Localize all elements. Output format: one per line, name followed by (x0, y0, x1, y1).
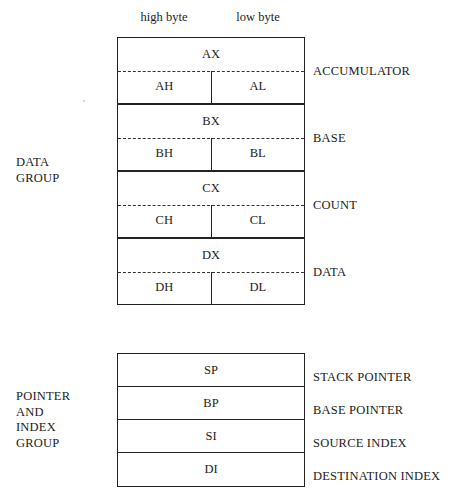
pointer-index-group-caption: POINTER AND INDEX GROUP (16, 389, 70, 451)
register-cell-bp: BP (118, 387, 304, 420)
register-cell-sp: SP (118, 354, 304, 387)
register-label-base-pointer: BASE POINTER (313, 403, 403, 417)
register-cell-bx: BX BH BL (117, 104, 305, 171)
register-halves-dx: DH DL (118, 272, 304, 305)
register-full-name-bx: BX (118, 105, 304, 138)
register-full-name-ax: AX (118, 38, 304, 71)
register-label-destination-index: DESTINATION INDEX (313, 469, 440, 483)
register-full-name-cx: CX (118, 172, 304, 205)
register-high-byte-dh: DH (118, 272, 212, 305)
data-group-caption-line1: DATA (16, 155, 59, 171)
register-low-byte-bl: BL (212, 138, 305, 171)
register-cell-cx: CX CH CL (117, 171, 305, 238)
register-label-base: BASE (313, 131, 346, 145)
register-low-byte-al: AL (212, 71, 305, 104)
register-high-byte-ah: AH (118, 71, 212, 104)
register-low-byte-cl: CL (212, 205, 305, 238)
register-label-data: DATA (313, 265, 346, 279)
register-halves-cx: CH CL (118, 205, 304, 238)
scan-artifact-speck (83, 100, 85, 102)
pointer-group-caption-line2: AND (16, 405, 70, 421)
byte-column-headers: high byte low byte (117, 8, 305, 26)
register-cell-dx: DX DH DL (117, 238, 305, 305)
low-byte-header: low byte (211, 8, 305, 26)
data-group-block: AX AH AL BX BH BL CX CH CL DX (117, 37, 305, 305)
register-halves-bx: BH BL (118, 138, 304, 171)
register-high-byte-bh: BH (118, 138, 212, 171)
register-label-source-index: SOURCE INDEX (313, 436, 407, 450)
pointer-group-caption-line3: INDEX (16, 420, 70, 436)
pointer-group-caption-line4: GROUP (16, 436, 70, 452)
register-full-name-dx: DX (118, 239, 304, 272)
register-high-byte-ch: CH (118, 205, 212, 238)
register-label-count: COUNT (313, 198, 357, 212)
register-label-stack-pointer: STACK POINTER (313, 370, 411, 384)
data-group-caption: DATA GROUP (16, 155, 59, 186)
register-halves-ax: AH AL (118, 71, 304, 104)
register-cell-ax: AX AH AL (117, 37, 305, 104)
data-group-caption-line2: GROUP (16, 171, 59, 187)
register-label-accumulator: ACCUMULATOR (313, 64, 410, 78)
register-low-byte-dl: DL (212, 272, 305, 305)
high-byte-header: high byte (117, 8, 211, 26)
pointer-index-group-block: SP BP SI DI (117, 353, 305, 487)
register-cell-si: SI (118, 420, 304, 453)
pointer-group-caption-line1: POINTER (16, 389, 70, 405)
register-diagram: high byte low byte DATA GROUP AX AH AL B… (0, 0, 458, 493)
register-cell-di: DI (118, 453, 304, 486)
